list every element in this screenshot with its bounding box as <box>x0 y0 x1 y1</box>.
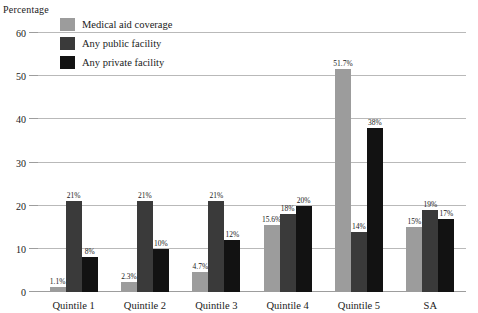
bar-value-label: 19% <box>423 200 437 209</box>
x-axis-category-label: Quintile 5 <box>338 300 380 311</box>
y-tick-label-0: 0 <box>0 287 26 298</box>
bar-2-2[interactable]: 21% <box>137 201 153 292</box>
bar-value-label: 20% <box>297 196 311 205</box>
y-tick-mark-60 <box>29 32 38 33</box>
y-tick-label-30: 30 <box>0 158 26 169</box>
x-axis-category-label: SA <box>424 300 437 311</box>
bar-3-3[interactable]: 12% <box>224 240 240 292</box>
bar-group-6: 15%19%17%SA <box>395 28 466 292</box>
bar-3-2[interactable]: 21% <box>208 201 224 292</box>
y-tick-label-50: 50 <box>0 71 26 82</box>
bar-value-label: 1.1% <box>50 277 66 286</box>
y-axis-title: Percentage <box>3 4 49 15</box>
legend-swatch-icon <box>60 56 75 69</box>
bar-2-3[interactable]: 10% <box>153 249 169 292</box>
bar-1-3[interactable]: 8% <box>82 257 98 292</box>
legend-item-2[interactable]: Any public facility <box>60 37 172 50</box>
x-axis-category-label: Quintile 1 <box>53 300 95 311</box>
bar-6-3[interactable]: 17% <box>438 219 454 292</box>
y-tick-mark-20 <box>29 205 38 206</box>
bar-3-1[interactable]: 4.7% <box>192 272 208 292</box>
bar-value-label: 15% <box>407 217 421 226</box>
bar-group-4: 15.6%18%20%Quintile 4 <box>252 28 323 292</box>
y-tick-label-20: 20 <box>0 201 26 212</box>
bar-5-1[interactable]: 51.7% <box>335 69 351 292</box>
bar-group-5: 51.7%14%38%Quintile 5 <box>323 28 394 292</box>
bar-value-label: 2.3% <box>121 272 137 281</box>
bar-value-label: 21% <box>67 191 81 200</box>
bar-value-label: 15.6% <box>262 215 281 224</box>
bar-value-label: 10% <box>154 239 168 248</box>
bar-value-label: 17% <box>439 209 453 218</box>
bar-value-label: 18% <box>281 204 295 213</box>
legend-swatch-icon <box>60 18 75 31</box>
bar-1-1[interactable]: 1.1% <box>50 287 66 292</box>
y-tick-mark-0 <box>29 291 38 292</box>
bar-value-label: 51.7% <box>333 59 352 68</box>
bar-4-3[interactable]: 20% <box>296 206 312 292</box>
x-axis-category-label: Quintile 3 <box>195 300 237 311</box>
y-tick-label-10: 10 <box>0 244 26 255</box>
legend-label: Any private facility <box>82 57 164 68</box>
x-axis-category-label: Quintile 4 <box>267 300 309 311</box>
legend-item-1[interactable]: Medical aid coverage <box>60 18 172 31</box>
bar-5-3[interactable]: 38% <box>367 128 383 292</box>
y-tick-mark-50 <box>29 75 38 76</box>
bar-value-label: 4.7% <box>193 262 209 271</box>
bar-value-label: 38% <box>368 118 382 127</box>
bar-2-1[interactable]: 2.3% <box>121 282 137 292</box>
bar-value-label: 21% <box>138 191 152 200</box>
bar-group-3: 4.7%21%12%Quintile 3 <box>181 28 252 292</box>
legend-swatch-icon <box>60 37 75 50</box>
bar-1-2[interactable]: 21% <box>66 201 82 292</box>
y-tick-mark-10 <box>29 248 38 249</box>
bar-value-label: 8% <box>85 247 95 256</box>
x-axis-category-label: Quintile 2 <box>124 300 166 311</box>
y-tick-mark-40 <box>29 118 38 119</box>
y-tick-label-60: 60 <box>0 28 26 39</box>
bar-4-1[interactable]: 15.6% <box>264 225 280 292</box>
bar-value-label: 12% <box>225 230 239 239</box>
y-tick-mark-30 <box>29 162 38 163</box>
legend-label: Any public facility <box>82 38 161 49</box>
bar-chart: Percentage 0102030405060 1.1%21%8%Quinti… <box>0 0 478 313</box>
bar-6-2[interactable]: 19% <box>422 210 438 292</box>
bar-value-label: 14% <box>352 222 366 231</box>
bar-value-label: 21% <box>209 191 223 200</box>
y-tick-label-40: 40 <box>0 114 26 125</box>
legend-label: Medical aid coverage <box>82 19 172 30</box>
bar-5-2[interactable]: 14% <box>351 232 367 292</box>
chart-legend: Medical aid coverageAny public facilityA… <box>60 18 172 75</box>
bar-6-1[interactable]: 15% <box>406 227 422 292</box>
legend-item-3[interactable]: Any private facility <box>60 56 172 69</box>
bar-4-2[interactable]: 18% <box>280 214 296 292</box>
